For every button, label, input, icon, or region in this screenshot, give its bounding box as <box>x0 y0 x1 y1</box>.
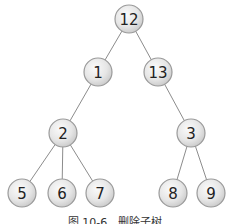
node-label: 8 <box>168 185 178 203</box>
tree-edges <box>22 19 211 193</box>
node-label: 2 <box>58 125 68 143</box>
node-label: 6 <box>57 185 67 203</box>
node-label: 3 <box>186 125 196 143</box>
tree-node-9: 9 <box>197 179 225 207</box>
tree-node-3: 3 <box>177 119 205 147</box>
node-label: 9 <box>206 185 216 203</box>
node-label: 5 <box>17 185 27 203</box>
node-label: 7 <box>95 185 105 203</box>
tree-node-5: 5 <box>8 179 36 207</box>
tree-node-2: 2 <box>49 119 77 147</box>
tree-node-1: 1 <box>84 58 112 86</box>
node-label: 13 <box>148 64 167 82</box>
tree-node-12: 12 <box>115 5 143 33</box>
tree-node-7: 7 <box>86 179 114 207</box>
tree-diagram: 121132356789 <box>0 0 230 224</box>
node-label: 12 <box>119 11 138 29</box>
tree-node-13: 13 <box>144 58 172 86</box>
node-label: 1 <box>93 64 103 82</box>
tree-node-6: 6 <box>48 179 76 207</box>
figure-caption: 图 10-6 删除子树 <box>0 213 230 224</box>
tree-nodes: 121132356789 <box>8 5 225 207</box>
tree-node-8: 8 <box>159 179 187 207</box>
